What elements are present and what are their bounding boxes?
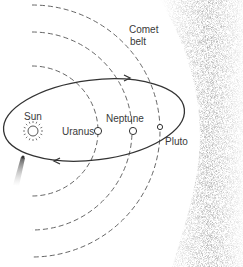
sun-icon	[23, 121, 43, 141]
comet-belt-label-line2: belt	[130, 36, 146, 47]
sun-label: Sun	[24, 111, 42, 122]
uranus-icon	[94, 127, 101, 134]
neptune-label: Neptune	[106, 113, 144, 124]
uranus-label: Uranus	[62, 126, 94, 137]
comet-belt-label-line1: Comet	[129, 24, 159, 35]
neptune-icon	[129, 127, 136, 134]
pluto-icon	[157, 124, 162, 129]
pluto-label: Pluto	[165, 136, 188, 147]
comet-cloud-band	[160, 0, 243, 267]
comet-orbit-diagram: Sun Uranus Neptune Pluto Comet belt	[0, 0, 243, 267]
comet	[13, 155, 25, 186]
arrow-right-icon	[124, 75, 130, 81]
